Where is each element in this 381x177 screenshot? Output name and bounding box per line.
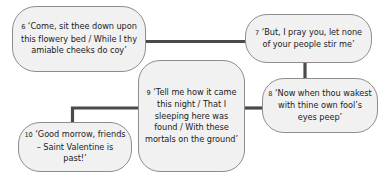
flow-node-8-text: 8 ‘Now when thou wakest with thine own f… bbox=[263, 88, 377, 123]
flow-node-9-number: 9 bbox=[147, 89, 151, 97]
flow-node-10-quote: ‘Good morrow, friends – Saint Valentine … bbox=[35, 129, 125, 163]
flow-node-9-text: 9 ‘Tell me how it came this night / That… bbox=[139, 87, 244, 145]
flow-node-7[interactable]: 7 ‘But, I pray you, let none of your peo… bbox=[245, 14, 372, 63]
flow-node-8-number: 8 bbox=[268, 90, 272, 98]
flow-node-6[interactable]: 6 ‘Come, sit thee down upon this flowery… bbox=[12, 6, 146, 72]
flow-node-10-number: 10 bbox=[24, 131, 32, 139]
flow-node-9[interactable]: 9 ‘Tell me how it came this night / That… bbox=[138, 60, 245, 172]
flow-node-7-text: 7 ‘But, I pray you, let none of your peo… bbox=[246, 27, 371, 51]
flow-node-7-number: 7 bbox=[255, 29, 259, 37]
flow-node-10[interactable]: 10 ‘Good morrow, friends – Saint Valenti… bbox=[18, 122, 132, 172]
flow-node-6-quote: ‘Come, sit thee down upon this flowery b… bbox=[21, 21, 137, 55]
flow-node-8-quote: ‘Now when thou wakest with thine own foo… bbox=[275, 88, 372, 122]
flow-node-6-number: 6 bbox=[21, 23, 25, 31]
flow-node-9-quote: ‘Tell me how it came this night / That I… bbox=[145, 87, 238, 144]
flow-node-8[interactable]: 8 ‘Now when thou wakest with thine own f… bbox=[262, 78, 378, 133]
flow-node-10-text: 10 ‘Good morrow, friends – Saint Valenti… bbox=[19, 129, 131, 164]
flowchart-diagram: 6 ‘Come, sit thee down upon this flowery… bbox=[0, 0, 381, 177]
flow-node-7-quote: ‘But, I pray you, let none of your peopl… bbox=[262, 27, 362, 49]
flow-node-6-text: 6 ‘Come, sit thee down upon this flowery… bbox=[13, 21, 145, 56]
